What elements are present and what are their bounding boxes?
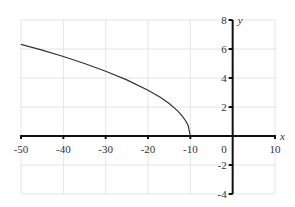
x-tick-label: 10: [270, 143, 282, 155]
y-tick-label: 4: [221, 72, 227, 84]
y-axis-label: y: [237, 14, 243, 26]
origin-label: 0: [221, 143, 227, 155]
x-tick-label: -10: [183, 143, 198, 155]
chart: -50-40-30-20-1010-4-224680xy: [0, 0, 295, 207]
y-tick-label: -4: [217, 188, 227, 200]
x-tick-label: -40: [56, 143, 71, 155]
y-tick-label: 6: [221, 43, 227, 55]
y-tick-label: 8: [221, 14, 227, 26]
x-axis-label: x: [279, 130, 285, 142]
x-tick-label: -30: [98, 143, 113, 155]
y-tick-label: -2: [217, 159, 226, 171]
grid: [21, 20, 275, 194]
x-tick-label: -20: [141, 143, 156, 155]
y-tick-label: 2: [221, 101, 227, 113]
x-tick-label: -50: [14, 143, 29, 155]
